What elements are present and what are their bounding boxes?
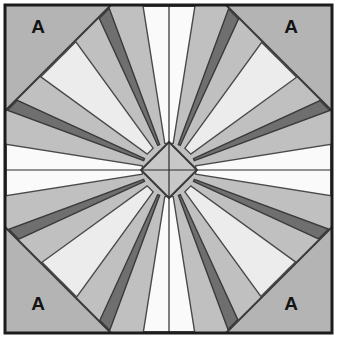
corner-a-top-right: A (284, 16, 298, 37)
quilt-block-figure: AAAA (0, 0, 338, 339)
quilt-block-canvas: AAAA (0, 0, 338, 339)
corner-a-bottom-left: A (31, 293, 45, 314)
corner-a-top-left: A (31, 16, 45, 37)
corner-a-bottom-right: A (284, 293, 298, 314)
